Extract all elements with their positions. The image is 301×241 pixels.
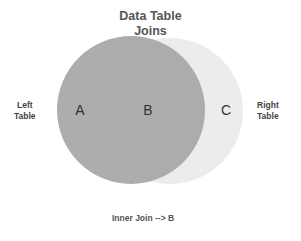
region-a-label: A: [75, 102, 85, 118]
right-table-label: Right Table: [257, 100, 279, 122]
region-b-label: B: [143, 102, 152, 118]
left-label-line-1: Left: [14, 100, 36, 111]
legend-inner-join: Inner Join --> B: [112, 213, 207, 224]
right-label-line-2: Table: [257, 111, 279, 122]
region-c-label: C: [221, 102, 231, 118]
right-label-line-1: Right: [257, 100, 279, 111]
join-legend: Inner Join --> B Outer Join --> A + B + …: [112, 191, 207, 241]
left-table-label: Left Table: [14, 100, 36, 122]
left-label-line-2: Table: [14, 111, 36, 122]
